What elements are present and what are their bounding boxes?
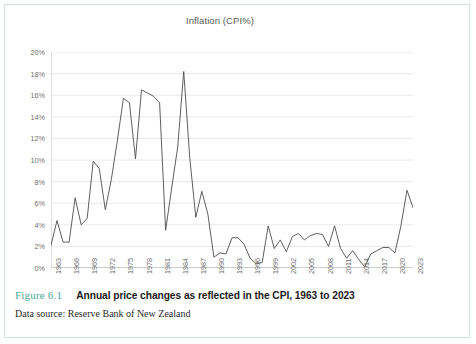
plot-area [51, 52, 413, 268]
y-axis-tick-label: 2% [5, 242, 45, 251]
y-axis-tick-label: 8% [5, 178, 45, 187]
data-source-text: Data source: Reserve Bank of New Zealand [15, 308, 461, 319]
y-axis-tick-label: 4% [5, 221, 45, 230]
x-axis-tick-label: 2023 [416, 258, 425, 274]
caption-row: Figure 6.1 Annual price changes as refle… [15, 289, 461, 301]
chart-region: Inflation (CPI%) 0%2%4%6%8%10%12%14%16%1… [5, 11, 471, 283]
figure-number-label: Figure 6.1 [15, 289, 62, 301]
caption-block: Figure 6.1 Annual price changes as refle… [15, 289, 461, 319]
chart-title: Inflation (CPI%) [5, 15, 435, 26]
inflation-line-chart [51, 52, 413, 268]
y-axis-tick-label: 14% [5, 113, 45, 122]
y-axis-tick-label: 12% [5, 134, 45, 143]
y-axis-tick-label: 6% [5, 199, 45, 208]
y-axis-tick-label: 10% [5, 156, 45, 165]
y-axis-tick-label: 20% [5, 48, 45, 57]
y-axis-tick-label: 18% [5, 70, 45, 79]
y-axis-tick-label: 16% [5, 91, 45, 100]
inflation-series-line [51, 71, 413, 266]
gridlines [51, 52, 413, 246]
y-axis-tick-label: 0% [5, 264, 45, 273]
figure-card: Inflation (CPI%) 0%2%4%6%8%10%12%14%16%1… [4, 4, 470, 338]
figure-caption-text: Annual price changes as reflected in the… [76, 290, 355, 301]
